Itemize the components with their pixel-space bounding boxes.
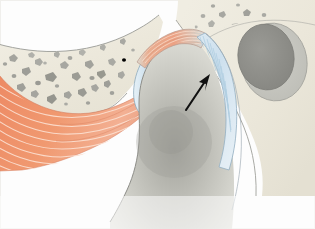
anatomical-figure: Sagittal cross-section of a synovial joi… <box>0 0 315 229</box>
anatomy-illustration-canvas <box>0 0 315 229</box>
bottom-fade <box>0 196 315 229</box>
